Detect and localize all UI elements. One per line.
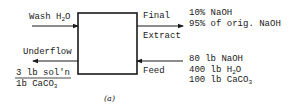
wash-water-tail: O (65, 12, 70, 22)
leaching-diagram: Wash H2O Underflow 3 lb sol'n 1b CaCO3 F… (0, 0, 299, 108)
feed-water-text: 400 lb H (189, 65, 232, 75)
final-extract-composition-2: 95% of orig. NaOH (189, 19, 281, 29)
feed-composition-1: 80 lb NaOH (189, 54, 243, 64)
underflow-label: Underflow (23, 47, 72, 57)
wash-water-label: Wash H2O (29, 12, 70, 22)
final-extract-composition-1: 10% NaOH (189, 8, 232, 18)
underflow-denominator-subscript: 3 (54, 83, 58, 90)
feed-composition-3: 100 lb CaCO3 (189, 75, 252, 85)
underflow-spec-denominator: 1b CaCO3 (16, 79, 57, 89)
underflow-denominator-text: 1b CaCO (16, 79, 54, 89)
feed-caco3-subscript: 3 (248, 79, 252, 86)
feed-water-tail: O (236, 65, 241, 75)
process-box (78, 13, 137, 74)
underflow-spec-numerator: 3 lb sol'n (16, 68, 70, 78)
feed-caco3-text: 100 lb CaCO (189, 75, 248, 85)
final-label: Final (143, 11, 170, 21)
extract-label: Extract (143, 31, 181, 41)
figure-caption: (a) (104, 94, 115, 103)
feed-composition-2: 400 lb H2O (189, 65, 241, 75)
wash-water-text: Wash H (29, 12, 61, 22)
feed-label: Feed (143, 66, 165, 76)
